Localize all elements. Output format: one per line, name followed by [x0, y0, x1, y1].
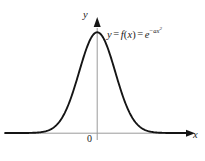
- equation-exponent-power: 2: [159, 26, 162, 31]
- gaussian-function-figure: y x 0 y=f(x)=e−ax2: [0, 0, 205, 161]
- y-axis-arrowhead-icon: [94, 17, 101, 27]
- plot-area: [0, 0, 205, 161]
- curve-equation-label: y=f(x)=e−ax2: [107, 29, 162, 40]
- origin-label: 0: [87, 134, 92, 144]
- y-axis-label: y: [83, 10, 88, 21]
- equation-exponent: −ax2: [150, 27, 162, 34]
- equation-equals-2: =: [136, 28, 145, 39]
- x-axis-label: x: [193, 130, 198, 141]
- equation-equals-1: =: [112, 28, 121, 39]
